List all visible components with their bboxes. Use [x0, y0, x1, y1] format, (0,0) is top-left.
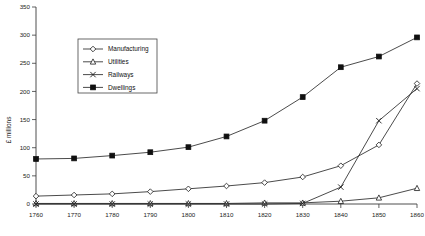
- data-point: [224, 183, 230, 189]
- legend-label: Dwellings: [108, 84, 135, 92]
- line-chart: £ millions 050100150200250300350 1760177…: [0, 0, 425, 236]
- series-line-manufacturing: [36, 84, 417, 197]
- x-tick-label: 1860: [410, 211, 424, 218]
- series-manufacturing: [33, 81, 420, 199]
- y-tick-label: 300: [20, 31, 31, 38]
- legend-marker: [91, 85, 96, 90]
- data-point: [110, 153, 115, 158]
- y-tick-label: 100: [20, 144, 31, 151]
- x-tick-label: 1800: [182, 211, 196, 218]
- data-point: [148, 150, 153, 155]
- x-tick-label: 1820: [258, 211, 272, 218]
- data-point: [262, 118, 267, 123]
- data-point: [148, 189, 154, 195]
- data-point: [415, 35, 420, 40]
- y-axis-ticks: 050100150200250300350: [20, 3, 36, 207]
- x-tick-label: 1770: [67, 211, 81, 218]
- data-point: [262, 180, 268, 186]
- data-point: [377, 54, 382, 59]
- data-point: [33, 193, 39, 199]
- legend-label: Utilities: [108, 58, 129, 65]
- x-tick-label: 1850: [372, 211, 386, 218]
- data-point: [71, 192, 77, 198]
- y-tick-label: 250: [20, 59, 31, 66]
- data-point: [414, 81, 420, 87]
- x-tick-label: 1810: [220, 211, 234, 218]
- y-tick-label: 350: [20, 3, 31, 10]
- y-axis-title: £ millions: [5, 117, 12, 144]
- data-point: [186, 186, 192, 192]
- data-point: [72, 156, 77, 161]
- data-point: [34, 157, 39, 162]
- chart-legend: ManufacturingUtilitiesRailwaysDwellings: [78, 39, 157, 93]
- data-point: [300, 174, 306, 180]
- y-tick-label: 50: [23, 172, 30, 179]
- x-tick-label: 1830: [296, 211, 310, 218]
- data-point: [300, 95, 305, 100]
- data-point: [338, 163, 344, 169]
- x-tick-label: 1840: [334, 211, 348, 218]
- x-tick-label: 1760: [29, 211, 43, 218]
- chart-canvas: £ millions 050100150200250300350 1760177…: [0, 0, 425, 236]
- data-point: [109, 191, 115, 197]
- data-point: [224, 134, 229, 139]
- data-point: [338, 65, 343, 70]
- x-tick-label: 1780: [105, 211, 119, 218]
- x-tick-label: 1790: [143, 211, 157, 218]
- legend-label: Manufacturing: [108, 45, 149, 53]
- legend-item-manufacturing[interactable]: Manufacturing: [83, 45, 149, 53]
- y-tick-label: 0: [27, 200, 31, 207]
- data-point: [186, 145, 191, 150]
- y-tick-label: 200: [20, 88, 31, 95]
- data-point: [414, 185, 419, 190]
- legend-label: Railways: [108, 71, 134, 79]
- data-point: [376, 142, 382, 148]
- y-tick-label: 150: [20, 116, 31, 123]
